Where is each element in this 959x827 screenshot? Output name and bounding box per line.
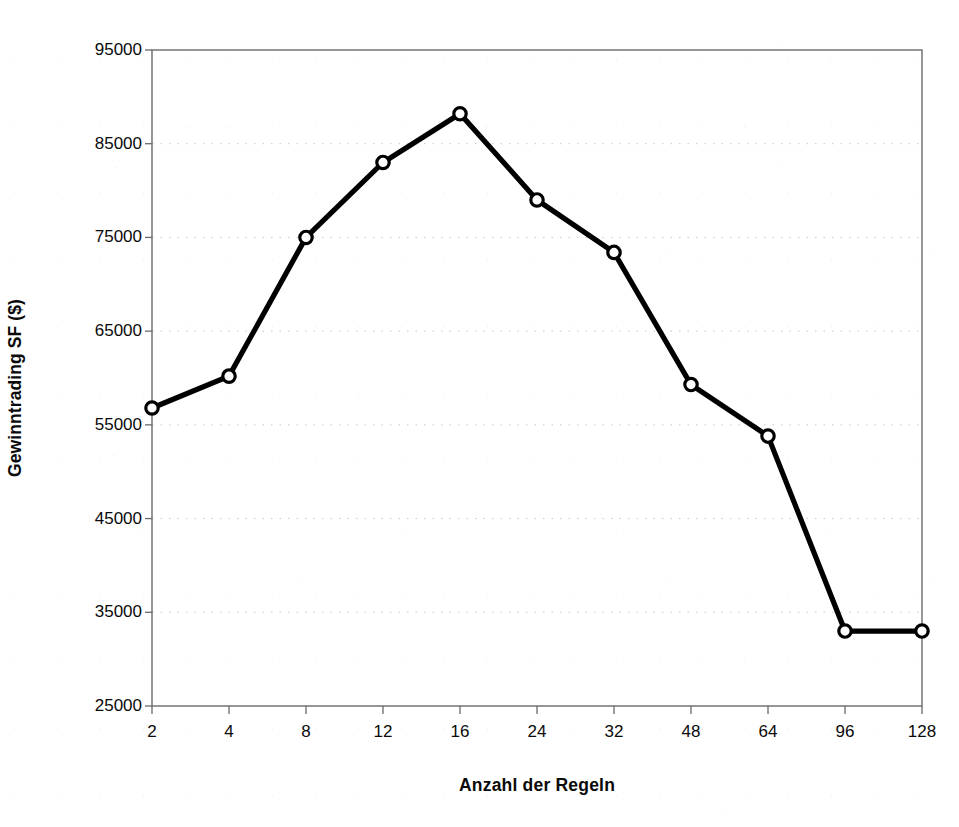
data-point-marker <box>839 625 851 637</box>
data-point-marker <box>762 430 774 442</box>
plot-area <box>0 0 959 827</box>
x-axis-tick-label: 12 <box>374 722 393 742</box>
x-axis-tick-label: 128 <box>908 722 936 742</box>
y-axis-ticks <box>145 50 152 706</box>
x-axis-tick-label: 16 <box>451 722 470 742</box>
y-axis-tick-label: 65000 <box>52 322 142 339</box>
data-point-marker <box>685 378 697 390</box>
x-axis-tick-label: 96 <box>836 722 855 742</box>
data-point-marker <box>223 370 235 382</box>
y-axis-tick-label: 45000 <box>52 510 142 527</box>
data-point-marker <box>916 625 928 637</box>
y-axis-tick-label: 85000 <box>52 135 142 152</box>
data-point-marker <box>531 194 543 206</box>
plot-background <box>152 50 922 706</box>
x-axis-tick-label: 24 <box>528 722 547 742</box>
y-axis-tick-label: 55000 <box>52 416 142 433</box>
data-point-marker <box>454 108 466 120</box>
chart-container: Gewinntrading SF ($) 9500085000750006500… <box>0 0 959 827</box>
data-point-marker <box>377 156 389 168</box>
y-axis-tick-label: 35000 <box>52 603 142 620</box>
x-axis-tick-label: 2 <box>147 722 156 742</box>
data-point-marker <box>300 231 312 243</box>
data-point-marker <box>146 402 158 414</box>
y-axis-tick-label: 95000 <box>52 41 142 58</box>
x-axis-tick-label: 4 <box>224 722 233 742</box>
y-axis-tick-label: 25000 <box>52 697 142 714</box>
data-point-marker <box>608 246 620 258</box>
x-axis-tick-label: 8 <box>301 722 310 742</box>
x-axis-tick-label: 48 <box>682 722 701 742</box>
x-axis-title: Anzahl der Regeln <box>152 775 922 796</box>
x-axis-tick-label: 64 <box>759 722 778 742</box>
y-axis-tick-label: 75000 <box>52 228 142 245</box>
x-axis-ticks <box>152 706 922 714</box>
x-axis-tick-label: 32 <box>605 722 624 742</box>
